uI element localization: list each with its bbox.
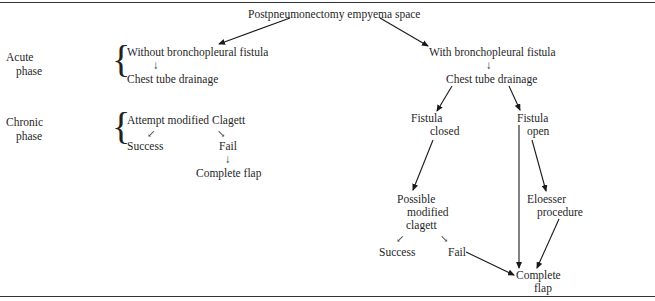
arrow-eloesser-to-complete <box>537 219 559 268</box>
connector-arrows <box>0 0 655 301</box>
arrow-chesttube-to-open <box>509 86 520 110</box>
arrow-fail-to-complete <box>466 252 514 275</box>
arrow-root-to-without <box>219 18 290 44</box>
arrow-root-to-with <box>380 18 428 46</box>
arrow-open-to-eloesser <box>532 140 546 191</box>
arrow-chesttube-to-closed <box>437 86 452 111</box>
arrow-closed-to-possible <box>413 140 433 190</box>
